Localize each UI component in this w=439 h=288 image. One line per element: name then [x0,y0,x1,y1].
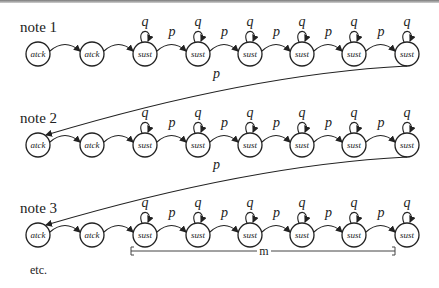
transition-edge [50,45,80,52]
state-label: atck [31,230,47,240]
self-loop-label-q: q [142,195,149,210]
footer-etc: etc. [30,263,47,277]
state-label: sust [191,49,206,59]
transition-label-p: p [168,115,176,130]
self-loop-label-q: q [247,195,254,210]
state-label: sust [138,49,153,59]
state-label: sust [243,49,258,59]
row-label-note-1: note 1 [20,19,57,35]
self-loop-edge [403,31,411,42]
self-loop-edge [403,212,411,223]
self-loop-edge [246,212,254,223]
transition-edge [314,136,342,143]
self-loop-edge [350,122,358,133]
self-loop-label-q: q [247,105,254,120]
transition-edge [314,45,342,52]
transition-label-p: p [324,115,332,130]
self-loop-edge [194,212,202,223]
transition-label-p: p [220,24,228,39]
self-loop-edge [246,122,254,133]
transition-label-p: p [272,205,280,220]
state-label: sust [295,230,310,240]
state-label: sust [243,140,258,150]
self-loop-label-q: q [195,14,202,29]
self-loop-label-q: q [299,105,306,120]
self-loop-label-q: q [404,105,411,120]
transition-label-p: p [220,115,228,130]
self-loop-label-q: q [299,14,306,29]
self-loop-label-q: q [195,195,202,210]
transition-label-p: p [168,24,176,39]
self-loop-label-q: q [404,14,411,29]
transition-edge [366,136,395,143]
state-label: atck [85,140,101,150]
state-label: sust [295,140,310,150]
transition-edge [262,226,290,233]
state-label: sust [400,49,415,59]
self-loop-edge [350,212,358,223]
transition-edge [210,226,238,233]
state-label: atck [85,230,101,240]
transition-edge [104,45,133,52]
return-label-p: p [212,66,220,81]
state-label: sust [138,140,153,150]
self-loop-edge [298,212,306,223]
transition-label-p: p [324,24,332,39]
transition-edge [262,136,290,143]
transition-edge [210,136,238,143]
row-note-3: pppppatckatcksustqsustqsustqsustqsustqsu… [26,195,419,247]
state-machine-diagram: pppppatckatcksustqsustqsustqsustqsustqsu… [0,0,439,288]
state-label: atck [31,140,47,150]
transition-label-p: p [324,205,332,220]
self-loop-label-q: q [247,14,254,29]
row-label-note-2: note 2 [20,110,57,126]
transition-edge [157,136,186,143]
state-label: sust [191,230,206,240]
self-loop-label-q: q [142,14,149,29]
row-label-note-3: note 3 [20,200,57,216]
self-loop-label-q: q [142,105,149,120]
transition-label-p: p [377,205,385,220]
transition-edge [104,136,133,143]
state-label: sust [347,140,362,150]
transition-edge [104,226,133,233]
transition-label-p: p [377,115,385,130]
state-label: sust [243,230,258,240]
transition-edge [314,226,342,233]
self-loop-label-q: q [351,105,358,120]
self-loop-edge [298,31,306,42]
self-loop-edge [141,122,149,133]
transition-edge [366,226,395,233]
state-label: sust [347,230,362,240]
transition-label-p: p [272,115,280,130]
transition-edge [50,136,80,143]
self-loop-edge [298,122,306,133]
transition-edge [262,45,290,52]
state-label: sust [138,230,153,240]
transition-edge [366,45,395,52]
self-loop-label-q: q [195,105,202,120]
transition-edge [157,45,186,52]
bracket-label-m: m [259,244,269,258]
self-loop-label-q: q [351,14,358,29]
self-loop-edge [141,212,149,223]
self-loop-label-q: q [351,195,358,210]
transition-edge [50,226,80,233]
state-label: sust [400,230,415,240]
state-label: atck [31,49,47,59]
state-label: atck [85,49,101,59]
self-loop-label-q: q [299,195,306,210]
transition-edge [157,226,186,233]
self-loop-label-q: q [404,195,411,210]
self-loop-edge [141,31,149,42]
return-label-p: p [212,157,220,172]
self-loop-edge [403,122,411,133]
self-loop-edge [194,122,202,133]
transition-label-p: p [168,205,176,220]
transition-label-p: p [220,205,228,220]
state-label: sust [295,49,310,59]
state-label: sust [347,49,362,59]
self-loop-edge [246,31,254,42]
transition-edge [210,45,238,52]
transition-label-p: p [377,24,385,39]
